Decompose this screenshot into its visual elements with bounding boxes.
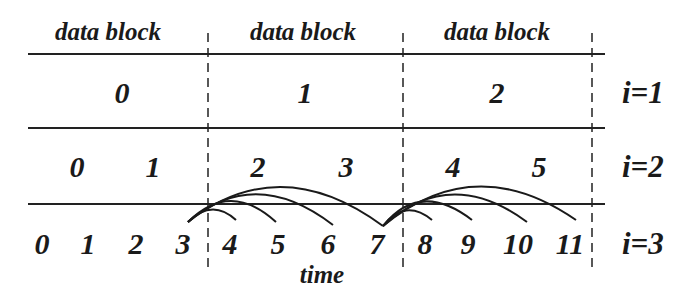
cell-i2-2: 2: [250, 150, 266, 183]
data-block-diagram: data block data block data block 0 1 2 i…: [0, 0, 692, 308]
cell-i1-1: 1: [298, 76, 313, 109]
cell-i2-0: 0: [70, 150, 85, 183]
level-label-i2: i=2: [622, 149, 664, 184]
cell-i3-10: 10: [503, 227, 533, 260]
cell-i3-0: 0: [35, 227, 50, 260]
cell-i2-1: 1: [146, 150, 161, 183]
cell-i3-3: 3: [175, 227, 191, 260]
cell-i1-2: 2: [489, 76, 505, 109]
cell-i3-7: 7: [370, 227, 386, 260]
cell-i3-4: 4: [222, 227, 238, 260]
cell-i3-8: 8: [418, 227, 433, 260]
header-data-block-0: data block: [55, 18, 162, 45]
arc-7-to-11: [383, 186, 576, 226]
cell-i3-11: 11: [556, 227, 584, 260]
cell-i3-1: 1: [81, 227, 96, 260]
time-axis-label: time: [300, 261, 344, 288]
cell-i3-5: 5: [271, 227, 286, 260]
arc-3-to-7: [188, 187, 383, 226]
cell-i2-3: 3: [338, 150, 354, 183]
header-data-block-1: data block: [250, 18, 357, 45]
cell-i3-2: 2: [128, 227, 144, 260]
header-data-block-2: data block: [444, 18, 551, 45]
cell-i2-5: 5: [532, 150, 547, 183]
cell-i3-6: 6: [321, 227, 336, 260]
level-label-i3: i=3: [622, 226, 664, 261]
level-label-i1: i=1: [622, 75, 664, 110]
cell-i2-4: 4: [445, 150, 461, 183]
cell-i3-9: 9: [461, 227, 476, 260]
cell-i1-0: 0: [115, 76, 130, 109]
